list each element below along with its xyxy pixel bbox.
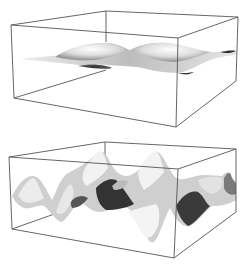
surface-top [20, 43, 238, 75]
bounding-box-top-front [11, 17, 238, 127]
surface-bottom [12, 151, 236, 242]
bounding-box-top-back [11, 11, 238, 42]
surface-plot-top [0, 0, 251, 272]
figure: Two 3D surface plots inside wireframe bo… [0, 0, 251, 272]
